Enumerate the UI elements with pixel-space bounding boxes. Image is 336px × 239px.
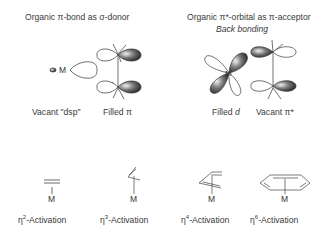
sigma-donor-title: Organic π-bond as σ-donor xyxy=(25,12,129,22)
vacant-dsp-caption: Vacant "dsp" xyxy=(32,107,80,117)
filled-d-caption: Filled d xyxy=(212,107,240,117)
eta4-metal: M xyxy=(208,194,215,204)
eta2-activation-label: η2-Activation xyxy=(18,215,66,225)
eta3-metal: M xyxy=(130,194,137,204)
metal-label-right: M xyxy=(225,69,232,78)
back-bonding-diagram xyxy=(205,40,296,99)
eta4-activation-label: η4-Activation xyxy=(181,215,229,225)
metal-label-left: M xyxy=(59,65,66,75)
pi-acceptor-title: Organic π*-orbital as π-acceptor xyxy=(187,12,311,22)
eta3-activation-label: η3-Activation xyxy=(100,215,148,225)
eta6-structure xyxy=(260,175,310,194)
filled-pi-caption: Filled π xyxy=(103,107,132,117)
eta3-structure xyxy=(128,167,140,194)
eta6-activation-label: η6-Activation xyxy=(250,215,298,225)
eta2-metal: M xyxy=(48,194,55,204)
eta4-structure xyxy=(199,172,222,194)
eta6-metal: M xyxy=(281,194,288,204)
eta2-structure xyxy=(44,180,60,194)
back-bonding-subtitle: Back bonding xyxy=(216,24,268,34)
vacant-pi-star-caption: Vacant π* xyxy=(256,107,294,117)
